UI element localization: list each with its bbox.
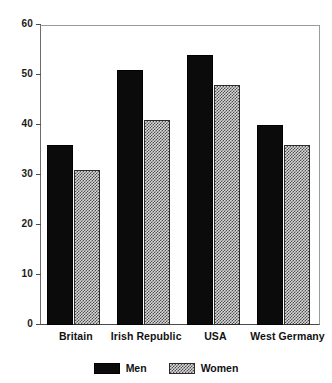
y-axis: 0102030405060 — [0, 0, 41, 383]
bar-men-britain — [47, 145, 73, 325]
bar-women-west-germany — [284, 145, 310, 325]
bar-women-britain — [74, 170, 100, 325]
bar-chart: 0102030405060 BritainIrish RepublicUSAWe… — [0, 0, 332, 383]
bar-men-irish-republic — [117, 70, 143, 325]
category-label-usa: USA — [181, 329, 251, 343]
hatched-swatch — [169, 363, 195, 374]
y-tick-label: 30 — [21, 168, 33, 180]
category-label-west-germany: West Germany — [250, 329, 320, 343]
y-tick-label: 10 — [21, 268, 33, 280]
legend-entry-men: Men — [94, 362, 147, 374]
chart-legend: MenWomen — [0, 359, 332, 377]
y-tick-label: 60 — [21, 18, 33, 30]
bar-men-west-germany — [257, 125, 283, 325]
legend-label: Women — [201, 362, 239, 374]
y-tick-label: 50 — [21, 68, 33, 80]
y-tick-label: 0 — [27, 318, 33, 330]
category-axis-labels: BritainIrish RepublicUSAWest Germany — [41, 329, 320, 347]
solid-black-swatch — [94, 363, 120, 374]
category-label-britain: Britain — [41, 329, 111, 343]
bar-women-irish-republic — [144, 120, 170, 325]
bar-women-usa — [214, 85, 240, 325]
y-tick-label: 40 — [21, 118, 33, 130]
category-label-irish-republic: Irish Republic — [111, 329, 181, 343]
legend-label: Men — [126, 362, 147, 374]
y-tick-label: 20 — [21, 218, 33, 230]
bars-layer — [41, 25, 320, 325]
bar-men-usa — [187, 55, 213, 325]
legend-entry-women: Women — [169, 362, 239, 374]
